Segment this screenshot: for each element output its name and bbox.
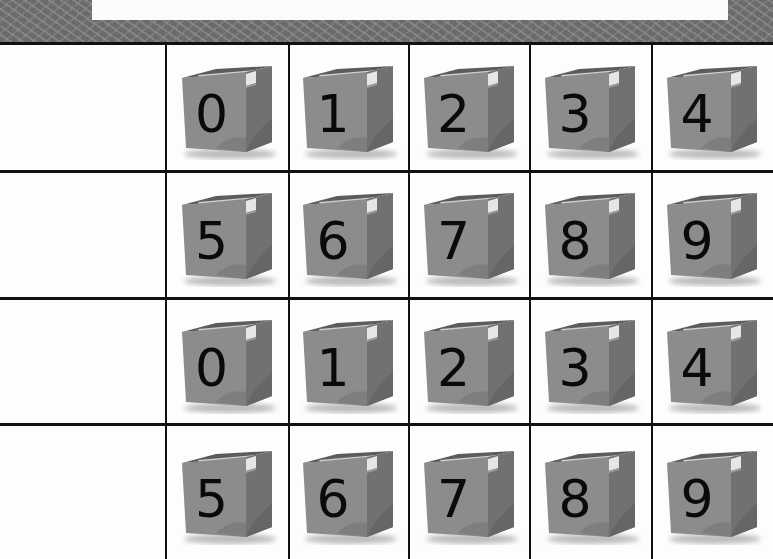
number-box-card[interactable]: 4 [661, 310, 765, 414]
box-digit: 8 [545, 463, 605, 535]
box-digit: 6 [303, 205, 363, 277]
grid-cell: 3 [531, 45, 651, 170]
number-box-card[interactable]: 3 [539, 310, 643, 414]
box-digit: 3 [545, 332, 605, 404]
grid-cell: 3 [531, 300, 651, 423]
number-box-card[interactable]: 8 [539, 183, 643, 287]
grid-cell: 7 [410, 426, 529, 559]
grid-cell: 8 [531, 173, 651, 297]
number-box-card[interactable]: 5 [176, 183, 280, 287]
row-label-cell [0, 45, 165, 170]
box-digit: 1 [303, 78, 363, 150]
grid-cell: 1 [290, 45, 408, 170]
grid-cell: 4 [653, 45, 773, 170]
grid-cell: 7 [410, 173, 529, 297]
box-digit: 5 [182, 205, 242, 277]
number-box-card[interactable]: 2 [418, 310, 522, 414]
box-digit: 2 [424, 78, 484, 150]
box-digit: 9 [667, 205, 727, 277]
grid-cell: 2 [410, 300, 529, 423]
grid-cell: 2 [410, 45, 529, 170]
number-box-card[interactable]: 4 [661, 56, 765, 160]
grid-cell: 5 [167, 173, 288, 297]
box-digit: 7 [424, 463, 484, 535]
grid-cell: 0 [167, 300, 288, 423]
grid-cell: 8 [531, 426, 651, 559]
grid-cell: 9 [653, 426, 773, 559]
box-digit: 4 [667, 78, 727, 150]
number-box-card[interactable]: 1 [297, 310, 401, 414]
row-label-cell [0, 426, 165, 559]
box-digit: 5 [182, 463, 242, 535]
title-panel [92, 0, 728, 20]
grid-cell: 1 [290, 300, 408, 423]
box-digit: 3 [545, 78, 605, 150]
number-box-card[interactable]: 8 [539, 441, 643, 545]
number-box-card[interactable]: 7 [418, 441, 522, 545]
number-box-card[interactable]: 0 [176, 56, 280, 160]
grid-cell: 9 [653, 173, 773, 297]
grid-cell: 6 [290, 173, 408, 297]
box-digit: 6 [303, 463, 363, 535]
number-box-card[interactable]: 7 [418, 183, 522, 287]
box-digit: 0 [182, 78, 242, 150]
grid-cell: 6 [290, 426, 408, 559]
number-box-card[interactable]: 5 [176, 441, 280, 545]
number-box-card[interactable]: 9 [661, 441, 765, 545]
box-digit: 0 [182, 332, 242, 404]
number-box-card[interactable]: 2 [418, 56, 522, 160]
number-box-card[interactable]: 1 [297, 56, 401, 160]
row-label-cell [0, 300, 165, 423]
box-digit: 2 [424, 332, 484, 404]
number-box-card[interactable]: 3 [539, 56, 643, 160]
grid-cell: 5 [167, 426, 288, 559]
number-box-card[interactable]: 6 [297, 183, 401, 287]
row-label-cell [0, 173, 165, 297]
box-digit: 9 [667, 463, 727, 535]
number-box-card[interactable]: 0 [176, 310, 280, 414]
number-box-card[interactable]: 6 [297, 441, 401, 545]
box-digit: 8 [545, 205, 605, 277]
box-digit: 1 [303, 332, 363, 404]
box-digit: 4 [667, 332, 727, 404]
box-digit: 7 [424, 205, 484, 277]
number-box-card[interactable]: 9 [661, 183, 765, 287]
grid-cell: 4 [653, 300, 773, 423]
grid-cell: 0 [167, 45, 288, 170]
